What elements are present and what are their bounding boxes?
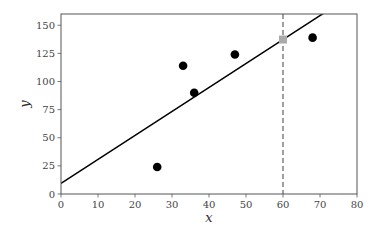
y-tick-label: 100 <box>36 76 55 87</box>
x-tick-label: 40 <box>203 199 216 210</box>
y-axis-ticks: 0255075100125150 <box>36 20 61 200</box>
y-tick-label: 75 <box>42 104 55 115</box>
regression-line <box>61 0 357 183</box>
y-axis-label: y <box>17 100 32 109</box>
plot-area <box>61 0 357 194</box>
y-tick-label: 125 <box>36 48 55 59</box>
data-point <box>190 88 199 97</box>
y-tick-label: 0 <box>49 189 55 200</box>
data-point <box>153 163 162 172</box>
y-tick-label: 25 <box>42 160 55 171</box>
y-tick-label: 50 <box>42 132 55 143</box>
x-axis-label: x <box>205 210 213 225</box>
scatter-regression-chart: 01020304050607080 0255075100125150 x y <box>0 0 381 234</box>
data-point <box>308 33 317 42</box>
x-tick-label: 10 <box>92 199 105 210</box>
plot-content <box>61 0 357 194</box>
x-tick-label: 80 <box>351 199 364 210</box>
data-point <box>231 50 240 59</box>
x-axis-ticks: 01020304050607080 <box>58 194 364 210</box>
x-tick-label: 50 <box>240 199 253 210</box>
x-tick-label: 60 <box>277 199 290 210</box>
prediction-marker <box>279 36 287 44</box>
x-tick-label: 20 <box>129 199 142 210</box>
x-tick-label: 0 <box>58 199 64 210</box>
x-tick-label: 30 <box>166 199 179 210</box>
y-tick-label: 150 <box>36 20 55 31</box>
x-tick-label: 70 <box>314 199 327 210</box>
data-point <box>179 61 188 70</box>
